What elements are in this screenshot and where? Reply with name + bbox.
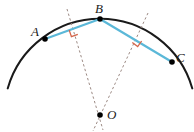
- point-label-c: C: [176, 51, 185, 64]
- point-o-dot: [97, 112, 103, 118]
- geometry-canvas: [0, 0, 194, 132]
- right-angle-mark-ab: [69, 30, 78, 36]
- point-label-o: O: [107, 108, 116, 121]
- point-c-dot: [169, 59, 175, 65]
- point-label-b: B: [95, 2, 103, 15]
- point-b-dot: [97, 16, 103, 22]
- perpendicular-bisector-ab: [67, 9, 103, 130]
- point-label-a: A: [31, 25, 39, 38]
- point-a-dot: [42, 36, 48, 42]
- geometry-figure: A B C O: [0, 0, 194, 132]
